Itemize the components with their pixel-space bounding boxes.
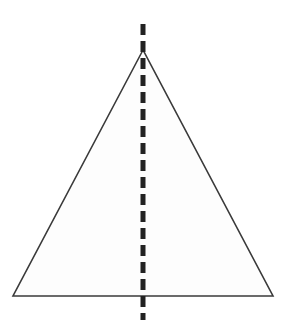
figure-canvas — [0, 0, 286, 336]
geometry-figure-svg — [0, 0, 286, 336]
